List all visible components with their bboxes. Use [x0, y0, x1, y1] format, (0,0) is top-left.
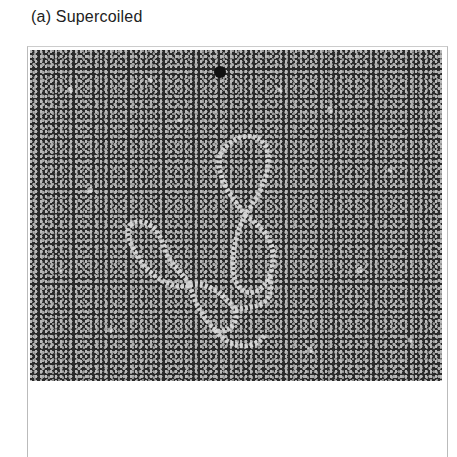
micrograph-image — [30, 50, 442, 381]
supercoiled-dna-shape — [30, 50, 442, 381]
figure-caption: (a) Supercoiled — [31, 8, 143, 26]
dark-spot — [214, 66, 226, 78]
